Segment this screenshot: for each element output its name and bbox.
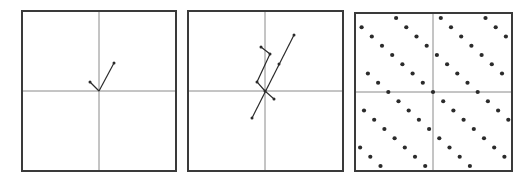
lattice-dot: [445, 62, 449, 66]
vector-tip: [264, 90, 267, 93]
vector-tip: [89, 81, 92, 84]
lattice-dot: [482, 136, 486, 140]
lattice-dot: [425, 44, 429, 48]
lattice-dot: [396, 99, 400, 103]
lattice-dot: [483, 16, 487, 20]
lattice-dot: [362, 108, 366, 112]
lattice-dot: [469, 44, 473, 48]
lattice-dot: [407, 108, 411, 112]
lattice-dot: [376, 81, 380, 85]
lattice-dot: [360, 25, 364, 29]
lattice-dot: [437, 136, 441, 140]
lattice-dot: [490, 62, 494, 66]
vector-path: [265, 91, 274, 99]
vector-tip: [251, 117, 254, 120]
vector-path: [257, 47, 270, 91]
lattice-dot: [455, 71, 459, 75]
vector-tip: [256, 81, 259, 84]
vector-tip: [273, 98, 276, 101]
lattice-dot: [472, 127, 476, 131]
lattice-dot: [462, 118, 466, 122]
lattice-dot: [431, 90, 435, 94]
lattice-dot: [358, 145, 362, 149]
lattice-dot: [366, 71, 370, 75]
lattice-dot: [394, 16, 398, 20]
lattice-dot: [486, 99, 490, 103]
vector-line: [90, 82, 99, 91]
lattice-dot: [417, 118, 421, 122]
lattice-dot: [435, 53, 439, 57]
lattice-dot: [400, 62, 404, 66]
lattice-dot: [380, 44, 384, 48]
lattice-dot: [386, 90, 390, 94]
panel-two-vectors: [22, 11, 176, 171]
lattice-dot: [414, 34, 418, 38]
lattice-dot: [449, 25, 453, 29]
lattice-dot: [476, 90, 480, 94]
lattice-dot: [451, 108, 455, 112]
lattice-dot: [404, 25, 408, 29]
lattice-dot: [441, 99, 445, 103]
lattice-dot: [502, 155, 506, 159]
lattice-dot: [411, 71, 415, 75]
lattice-dot: [393, 136, 397, 140]
lattice-dot: [494, 25, 498, 29]
vector-tip: [269, 53, 272, 56]
panel-vector-combination: [188, 11, 343, 171]
lattice-dot: [439, 16, 443, 20]
vector-tip: [260, 46, 263, 49]
lattice-dot: [378, 164, 382, 168]
vector-tip: [113, 62, 116, 65]
lattice-dot: [480, 53, 484, 57]
lattice-dot: [382, 127, 386, 131]
midpoint-marker: [278, 63, 281, 66]
lattice-dot: [372, 118, 376, 122]
lattice-dot: [459, 34, 463, 38]
lattice-dot: [468, 164, 472, 168]
lattice-dot: [500, 71, 504, 75]
lattice-dot: [496, 108, 500, 112]
lattice-dot: [465, 81, 469, 85]
lattice-dot: [447, 145, 451, 149]
lattice-dot: [403, 145, 407, 149]
lattice-dot: [423, 164, 427, 168]
lattice-dot: [413, 155, 417, 159]
lattice-dot: [427, 127, 431, 131]
vector-line: [99, 63, 114, 91]
lattice-dot: [390, 53, 394, 57]
vector-tip: [293, 34, 296, 37]
lattice-dot: [504, 34, 508, 38]
lattice-dot: [506, 118, 510, 122]
lattice-dot: [370, 34, 374, 38]
vector-path: [252, 35, 294, 118]
lattice-dot: [421, 81, 425, 85]
figure-canvas: [0, 0, 530, 180]
panel-lattice-dots: [355, 13, 512, 171]
lattice-dot: [458, 155, 462, 159]
lattice-dot: [492, 145, 496, 149]
lattice-dot: [368, 155, 372, 159]
